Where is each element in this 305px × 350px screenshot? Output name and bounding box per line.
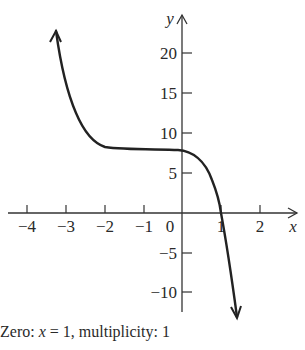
y-tick-label: 15	[160, 84, 177, 103]
y-tick-label: 10	[160, 124, 177, 143]
x-tick-label: −2	[96, 217, 114, 236]
y-tick-label: 20	[160, 44, 177, 63]
x-tick-label: −3	[57, 217, 75, 236]
caption-suffix: = 1, multiplicity: 1	[46, 323, 170, 340]
x-tick-label: −1	[135, 217, 153, 236]
x-tick-label: 0	[166, 217, 175, 236]
polynomial-graph: −4 −3 −2 −1 0 1 2 x 20 15 10 5 −5 −10 y	[0, 0, 305, 350]
x-tick-label: 2	[256, 217, 265, 236]
y-tick-label: 5	[169, 164, 178, 183]
function-curve	[50, 31, 241, 318]
x-tick-label: −4	[18, 217, 37, 236]
caption-variable: x	[39, 323, 46, 340]
caption-prefix: Zero:	[0, 323, 39, 340]
y-tick-label: −10	[150, 283, 177, 302]
zero-caption: Zero: x = 1, multiplicity: 1	[0, 323, 170, 341]
curve-up-arrow-icon	[50, 31, 61, 42]
y-axis: 20 15 10 5 −5 −10 y	[150, 9, 192, 312]
y-axis-label: y	[164, 9, 174, 28]
x-axis: −4 −3 −2 −1 0 1 2 x	[8, 205, 297, 236]
y-tick-label: −5	[159, 244, 177, 263]
x-axis-label: x	[288, 217, 297, 236]
